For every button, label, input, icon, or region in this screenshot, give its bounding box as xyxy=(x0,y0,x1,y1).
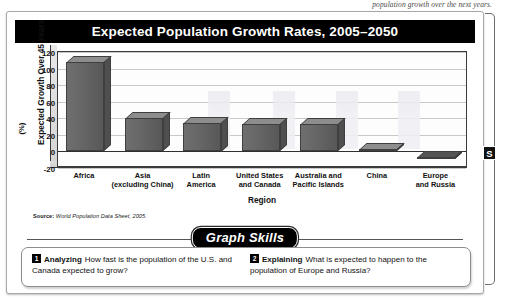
skills-question: 1AnalyzingHow fast is the population of … xyxy=(32,254,244,277)
bar-column xyxy=(417,52,463,168)
questions-box: 1AnalyzingHow fast is the population of … xyxy=(21,247,471,287)
bar-front-face xyxy=(242,124,280,151)
bar xyxy=(125,112,163,151)
plot-frame: 120100806040200-20 xyxy=(57,51,467,167)
y-axis-tick-label: 100 xyxy=(42,65,55,74)
bar-front-face xyxy=(183,123,221,152)
bar-front-face xyxy=(359,149,397,151)
bar-side-face xyxy=(221,116,228,151)
bar xyxy=(183,117,221,152)
source-text: World Population Data Sheet, 2005. xyxy=(56,213,147,219)
y-axis-unit-label: (%) xyxy=(17,109,26,149)
y-axis-tick-label: 80 xyxy=(46,82,55,91)
figure-card: Expected Population Growth Rates, 2005–2… xyxy=(6,11,484,294)
y-axis-tick-label: 120 xyxy=(42,49,55,58)
bar-side-face xyxy=(280,118,287,151)
chart-plot-area: Expected Growth Over 45 Years (%) 120100… xyxy=(15,45,477,210)
question-number: 1 xyxy=(32,254,41,263)
x-axis-title: Region xyxy=(57,195,467,205)
source-note: Source: World Population Data Sheet, 200… xyxy=(33,213,147,219)
bar xyxy=(417,151,455,156)
bar-front-face xyxy=(66,62,104,151)
y-axis-tick-label: 20 xyxy=(46,131,55,140)
bar xyxy=(359,143,397,151)
y-axis-tick-label: 40 xyxy=(46,115,55,124)
section-tab: S xyxy=(483,146,496,160)
bar-column xyxy=(66,52,112,168)
x-axis-category-label: Europe and Russia xyxy=(398,171,472,189)
bar-front-face xyxy=(125,118,163,151)
gridline: -20 xyxy=(58,168,466,169)
source-prefix: Source: xyxy=(33,213,54,219)
bar-column xyxy=(300,52,346,168)
bar-side-face xyxy=(104,56,111,152)
bar-column xyxy=(359,52,405,168)
bar xyxy=(300,118,338,151)
question-number: 2 xyxy=(250,254,259,263)
bar-side-face xyxy=(338,118,345,151)
bar-front-face xyxy=(300,124,338,151)
bar-front-face xyxy=(417,157,455,159)
bar-column xyxy=(242,52,288,168)
skills-question: 2ExplainingWhat is expected to happen to… xyxy=(250,254,462,277)
y-axis-tick-label: 60 xyxy=(46,98,55,107)
y-axis-tick-label: 0 xyxy=(51,148,55,157)
chart-title: Expected Population Growth Rates, 2005–2… xyxy=(15,20,475,43)
bar-column xyxy=(125,52,171,168)
question-verb: Explaining xyxy=(262,255,302,264)
bar-side-face xyxy=(163,112,170,151)
y-axis-title: Expected Growth Over 45 Years xyxy=(36,25,46,145)
graph-skills-badge: Graph Skills xyxy=(192,227,298,249)
bar xyxy=(66,56,104,151)
question-verb: Analyzing xyxy=(44,255,82,264)
bar-column xyxy=(183,52,229,168)
bar xyxy=(242,118,280,151)
